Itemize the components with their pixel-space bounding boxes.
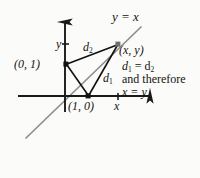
diagram-canvas	[0, 0, 200, 178]
label-d1-subscript: 1	[109, 77, 113, 86]
segment-p01-to-p10	[67, 65, 88, 95]
label-d1: d1	[103, 72, 113, 85]
label-line-equation: y = x	[112, 10, 139, 23]
label-d2: d2	[83, 41, 93, 54]
coordinate-diagram-figure: y = x y d2 (x, y) (0, 1) d1 = d2 d1 and …	[0, 0, 200, 178]
label-y-axis: y	[56, 38, 61, 50]
label-point-1-0: (1, 0)	[68, 100, 94, 112]
point-marker-1-0	[86, 93, 91, 98]
label-x-axis: x	[114, 100, 119, 112]
label-point-0-1: (0, 1)	[14, 58, 40, 70]
equality-operator: = d	[132, 59, 151, 73]
point-marker-0-1	[63, 62, 68, 67]
label-d2-subscript: 2	[89, 46, 93, 55]
label-and-therefore: and therefore	[122, 73, 186, 85]
label-point-xy: (x, y)	[119, 44, 144, 56]
label-equality-x-y: x = y	[122, 86, 147, 98]
